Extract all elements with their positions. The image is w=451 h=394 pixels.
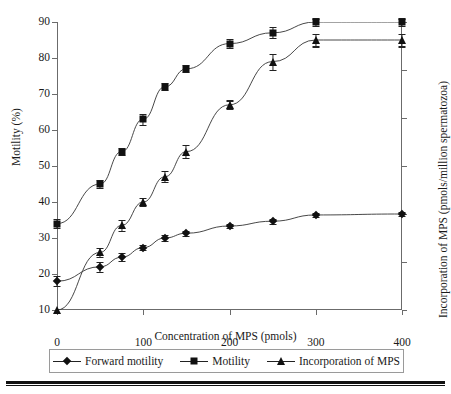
square-data-point [399,19,406,26]
x-tick [143,310,144,315]
error-bar-cap [161,90,168,91]
triangle-data-point [139,198,147,206]
error-bar-cap [140,125,147,126]
legend-item: Incorporation of MPS [267,355,400,367]
y-left-tick-label: 20 [39,268,51,280]
triangle-data-point [182,148,190,156]
figure-container: 102030405060708090 0123456 0100200300400… [0,0,451,394]
y-left-tick-label: 80 [39,52,51,64]
x-tick [316,310,317,315]
square-data-point [118,148,125,155]
error-bar-cap [226,109,233,110]
error-bar-cap [118,155,125,156]
error-bar-cap [312,26,319,27]
square-marker [191,358,198,365]
square-data-point [54,220,61,227]
error-bar-cap [312,46,319,47]
triangle-data-point [226,101,234,109]
diamond-marker [63,357,71,365]
error-bar-cap [97,188,104,189]
triangle-data-point [53,306,61,314]
triangle-marker [277,357,285,365]
triangle-data-point [398,36,406,44]
triangle-data-point [118,221,126,229]
legend-label: Incorporation of MPS [299,355,400,367]
error-bar-cap [399,46,406,47]
error-bar-cap [183,72,190,73]
error-bar-cap [312,34,319,35]
error-bar-cap [183,158,190,159]
error-bar-cap [54,286,61,287]
y-left-tick-label: 30 [39,232,51,244]
series-line [57,22,402,224]
y-right-tick [402,166,407,167]
y-left-tick-label: 70 [39,88,51,100]
legend-line [267,357,295,366]
legend-item: Forward motility [53,355,163,367]
triangle-data-point [312,36,320,44]
y-left-tick-label: 50 [39,160,51,172]
error-bar-cap [97,257,104,258]
legend-item: Motility [180,355,250,367]
triangle-data-point [96,248,104,256]
error-bar-cap [399,26,406,27]
chart-legend: Forward motilityMotilityIncorporation of… [49,349,404,373]
square-data-point [269,29,276,36]
square-data-point [183,65,190,72]
y-right-tick [402,262,407,263]
square-data-point [161,83,168,90]
x-tick [230,310,231,315]
x-tick [402,310,403,315]
error-bar-cap [97,272,104,273]
plot-area: 102030405060708090 0123456 0100200300400 [57,22,402,310]
y-left-tick-label: 40 [39,196,51,208]
y-right-tick [402,118,407,119]
square-data-point [97,181,104,188]
y-left-tick-label: 10 [39,304,51,316]
y-axis-right-title: Incorporation of MPS (pmols/million sper… [437,81,449,318]
y-axis-left-title: Motility (%) [10,108,22,166]
y-right-tick [402,70,407,71]
error-bar-cap [118,231,125,232]
y-left-tick-label: 90 [39,16,51,28]
x-axis-title: Concentration of MPS (pmols) [0,330,451,342]
error-bar-cap [226,48,233,49]
error-bar-cap [269,70,276,71]
legend-line [180,357,208,366]
error-bar-cap [269,38,276,39]
series-paths [57,22,402,310]
footer-rule [6,381,445,384]
error-bar-cap [183,145,190,146]
error-bar-cap [161,182,168,183]
legend-line [53,357,81,366]
legend-label: Forward motility [85,355,163,367]
error-bar-cap [399,34,406,35]
square-data-point [226,40,233,47]
triangle-data-point [269,58,277,66]
triangle-data-point [161,173,169,181]
error-bar-cap [54,228,61,229]
data-series-layer [57,22,402,310]
square-data-point [140,116,147,123]
y-left-tick-label: 60 [39,124,51,136]
error-bar-cap [269,54,276,55]
legend-label: Motility [212,355,250,367]
square-data-point [312,19,319,26]
